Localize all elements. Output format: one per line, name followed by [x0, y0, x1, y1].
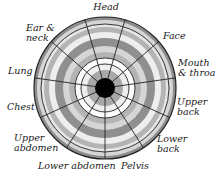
- label-ear-neck: Ear & neck: [26, 23, 55, 43]
- label-lower-abdomen: Lower abdomen: [38, 161, 116, 171]
- label-pelvis: Pelvis: [121, 161, 149, 171]
- label-upper-back: Upper back: [177, 97, 207, 117]
- label-chest: Chest: [7, 102, 35, 112]
- label-mouth-throat: Mouth & throat: [178, 58, 215, 78]
- label-head: Head: [92, 2, 120, 12]
- label-lung: Lung: [8, 66, 33, 76]
- label-lower-back: Lower back: [157, 134, 187, 154]
- label-upper-abdomen: Upper abdomen: [14, 133, 58, 153]
- label-face: Face: [163, 31, 186, 41]
- center-hub: [95, 78, 115, 98]
